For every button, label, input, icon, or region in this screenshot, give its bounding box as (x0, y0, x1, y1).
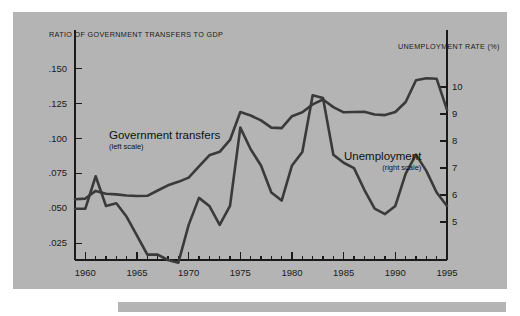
x-tick-1975: 1975 (220, 267, 260, 278)
series-label-transfers-name: Government transfers (109, 129, 220, 142)
x-tick-1990: 1990 (375, 267, 415, 278)
left-tick-.050: .050 (35, 202, 67, 213)
right-tick-5: 5 (452, 216, 472, 227)
left-tick-.100: .100 (35, 133, 67, 144)
x-tick-1970: 1970 (169, 267, 209, 278)
right-tick-10: 10 (452, 81, 472, 92)
left-tick-.075: .075 (35, 167, 67, 178)
left-tick-.150: .150 (35, 63, 67, 74)
x-tick-1965: 1965 (117, 267, 157, 278)
right-tick-6: 6 (452, 189, 472, 200)
figure-container: RATIO OF GOVERNMENT TRANSFERS TO GDP UNE… (0, 0, 520, 316)
left-axis-title: RATIO OF GOVERNMENT TRANSFERS TO GDP (49, 30, 223, 40)
right-axis-title: UNEMPLOYMENT RATE (%) (398, 42, 500, 52)
series-label-government-transfers: Government transfers (left scale) (109, 129, 220, 152)
series-label-unemployment-name: Unemployment (344, 150, 421, 163)
chart-plot-area (13, 12, 507, 289)
bottom-decorative-bar (118, 302, 506, 312)
x-tick-1995: 1995 (427, 267, 467, 278)
x-tick-1960: 1960 (65, 267, 105, 278)
right-tick-9: 9 (452, 108, 472, 119)
series-label-unemployment-scale: (right scale) (344, 163, 421, 173)
left-tick-.025: .025 (35, 237, 67, 248)
series-label-unemployment: Unemployment (right scale) (344, 150, 421, 173)
right-tick-7: 7 (452, 162, 472, 173)
x-tick-1985: 1985 (324, 267, 364, 278)
series-label-transfers-scale: (left scale) (109, 142, 220, 152)
x-tick-1980: 1980 (272, 267, 312, 278)
right-tick-8: 8 (452, 135, 472, 146)
chart-panel: RATIO OF GOVERNMENT TRANSFERS TO GDP UNE… (13, 12, 507, 289)
left-tick-.125: .125 (35, 98, 67, 109)
